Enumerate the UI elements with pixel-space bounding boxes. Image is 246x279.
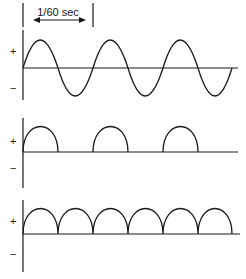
full-wave xyxy=(23,209,232,235)
plus-label: + xyxy=(10,135,16,147)
panel-full-ac-sine: + − xyxy=(10,30,238,100)
minus-label: − xyxy=(10,82,16,94)
plus-label: + xyxy=(10,45,16,57)
panel-half-wave-rectified: + − xyxy=(10,118,238,188)
minus-label: − xyxy=(10,248,16,260)
panel-full-wave-rectified: + − xyxy=(10,200,240,272)
period-marker: 1/60 sec xyxy=(23,3,93,27)
plus-label: + xyxy=(10,215,16,227)
period-label: 1/60 sec xyxy=(37,6,79,18)
arrow-right-icon xyxy=(79,17,86,23)
waveform-diagram: 1/60 sec + − + − + − xyxy=(0,0,246,279)
minus-label: − xyxy=(10,162,16,174)
half-wave xyxy=(23,127,198,153)
